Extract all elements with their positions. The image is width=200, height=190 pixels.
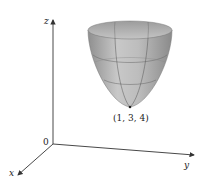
x-axis-label: x (9, 168, 14, 178)
paraboloid-diagram: z y x 0 (1, 3, 4) (0, 0, 200, 190)
y-axis (53, 144, 194, 155)
paraboloid-surface (88, 21, 172, 108)
x-axis (18, 144, 53, 175)
origin-label: 0 (43, 137, 49, 147)
vertex-point (129, 106, 132, 109)
z-axis-label: z (43, 16, 49, 26)
vertex-label: (1, 3, 4) (113, 113, 149, 123)
y-axis-label: y (183, 160, 190, 170)
